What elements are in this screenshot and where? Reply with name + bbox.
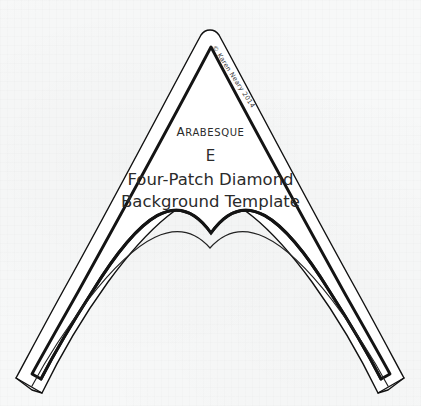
inner-outline-path	[32, 47, 390, 379]
template-canvas: Arabesque E Four-Patch Diamond Backgroun…	[0, 0, 421, 406]
arabesque-template-drawing	[0, 0, 421, 406]
